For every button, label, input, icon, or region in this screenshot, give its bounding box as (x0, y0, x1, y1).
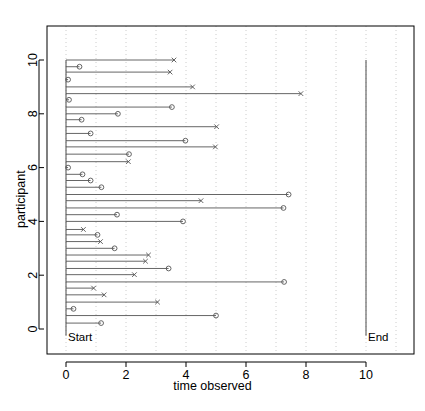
y-tick-label-10: 10 (26, 53, 40, 67)
plot-area: StartEnd02468100246810 (0, 0, 425, 411)
y-tick-label-6: 6 (26, 164, 40, 171)
y-tick-label-8: 8 (26, 110, 40, 117)
y-tick-label-0: 0 (26, 325, 40, 332)
end-annotation: End (368, 331, 388, 343)
y-tick-label-2: 2 (26, 272, 40, 279)
y-tick-label-4: 4 (26, 218, 40, 225)
x-axis-label: time observed (0, 379, 425, 393)
start-annotation: Start (68, 331, 93, 343)
y-axis-label: participant (14, 170, 28, 228)
survival-lollipop-chart: StartEnd02468100246810 time observed par… (0, 0, 425, 411)
